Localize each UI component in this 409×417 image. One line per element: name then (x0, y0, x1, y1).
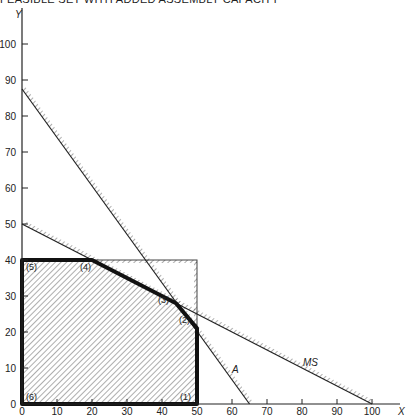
y-tick-label: 0 (10, 399, 16, 410)
x-tick-label: 70 (261, 406, 273, 417)
y-tick-label: 80 (5, 111, 17, 122)
y-tick-label: 30 (5, 291, 17, 302)
box-top-hatch (92, 260, 197, 263)
y-tick-label: 70 (5, 147, 17, 158)
vertex-label: (5) (26, 262, 37, 272)
x-tick-label: 50 (191, 406, 203, 417)
y-tick-label: 50 (5, 219, 17, 230)
x-tick-label: 80 (296, 406, 308, 417)
vertex-label: (4) (80, 262, 91, 272)
vertex-label: (3) (158, 295, 169, 305)
label-ms: MS (303, 357, 318, 368)
x-tick-label: 100 (364, 406, 381, 417)
y-tick-label: 20 (5, 327, 17, 338)
vertex-label: (2) (179, 315, 190, 325)
x-tick-label: 40 (156, 406, 168, 417)
x-tick-label: 30 (121, 406, 133, 417)
y-tick-label: 40 (5, 255, 17, 266)
label-a: A (231, 364, 239, 375)
y-tick-label: 90 (5, 75, 17, 86)
x-tick-label: 60 (226, 406, 238, 417)
y-tick-label: 100 (0, 39, 16, 50)
x-axis-label: X (397, 406, 405, 417)
vertex-label: (1) (180, 392, 191, 402)
feasible-region (22, 260, 197, 404)
vertex-label: (6) (26, 392, 37, 402)
y-tick-label: 10 (5, 363, 17, 374)
x-tick-label: 10 (51, 406, 63, 417)
y-tick-label: 60 (5, 183, 17, 194)
x-tick-label: 0 (19, 406, 25, 417)
x-tick-label: 90 (331, 406, 343, 417)
x-tick-label: 20 (86, 406, 98, 417)
chart-plot: 0102030405060708090100010203040506070809… (0, 0, 409, 417)
